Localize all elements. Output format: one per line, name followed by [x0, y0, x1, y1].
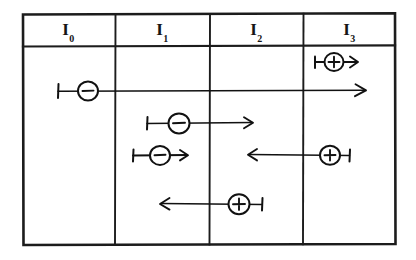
column-divider-1: [115, 14, 116, 245]
column-divider-3: [303, 14, 304, 245]
shaft: [147, 123, 252, 124]
table-frame: [23, 13, 396, 245]
column-divider-2: [210, 14, 211, 245]
column-header-I0-subscript: 0: [69, 33, 75, 44]
column-header-I1-subscript: 1: [163, 33, 169, 44]
column-header-I2: I2: [210, 20, 303, 41]
track-plus-i3-to-i2-left: [248, 146, 350, 165]
track-minus-i1-short: [133, 146, 188, 165]
column-header-I0: I0: [22, 20, 115, 41]
shaft: [58, 90, 365, 91]
track-plus-i2-to-i1-left: [160, 194, 263, 214]
column-header-I3: I3: [303, 20, 396, 41]
track-plus-i3-short: [315, 53, 358, 71]
column-header-I3-subscript: 3: [350, 33, 356, 44]
track-minus-i1-to-i2: [147, 113, 253, 133]
figure-canvas: I0 I1 I2 I3: [0, 0, 416, 260]
column-header-I2-subscript: 2: [257, 33, 263, 44]
track-minus-long: [58, 82, 366, 101]
column-header-I1: I1: [115, 20, 210, 41]
